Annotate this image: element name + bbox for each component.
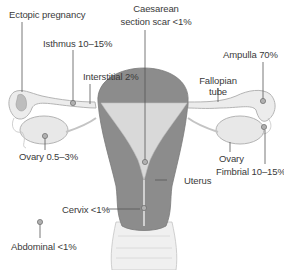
label-fimbrial: Fimbrial 10–15% [216, 166, 284, 177]
isthmus-marker [70, 100, 75, 105]
label-ovary: Ovary [219, 153, 244, 164]
fimbrial-marker [261, 124, 266, 129]
label-caesarean-line1: Caesarean [106, 3, 206, 14]
abdominal-marker [37, 219, 42, 224]
left-ovary [12, 116, 96, 148]
label-cervix: Cervix <1% [62, 204, 110, 215]
caesarean-scar-marker [142, 159, 147, 164]
label-abdominal: Abdominal <1% [11, 241, 77, 252]
left-fallopian-tube [9, 91, 96, 120]
label-ovary-site: Ovary 0.5–3% [19, 151, 78, 162]
label-fallopian-line1: Fallopian [196, 75, 240, 86]
label-ampulla: Ampulla 70% [223, 49, 278, 60]
label-isthmus: Isthmus 10–15% [43, 38, 112, 49]
label-caesarean-line2: section scar <1% [106, 16, 206, 27]
right-ovary [188, 116, 271, 144]
label-ectopic-pregnancy: Ectopic pregnancy [9, 9, 85, 20]
cervix-marker [141, 205, 146, 210]
ampulla-marker [260, 98, 265, 103]
label-interstitial: Interstitial 2% [83, 71, 139, 82]
label-fallopian-line2: tube [196, 86, 240, 97]
ovary-marker [42, 133, 47, 138]
ectopic-pregnancy-diagram: Ectopic pregnancy Caesarean section scar… [0, 0, 284, 270]
label-uterus: Uterus [184, 175, 211, 186]
